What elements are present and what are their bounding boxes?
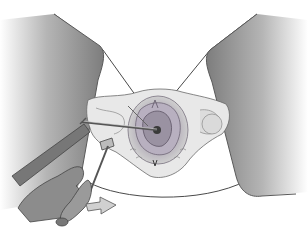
surgical-illustration xyxy=(0,0,308,240)
instrument-handle xyxy=(90,146,108,192)
handle-end xyxy=(56,218,68,226)
buttock-outline xyxy=(88,180,248,197)
rotation-arrow-icon xyxy=(86,197,116,214)
tissue-bulge-right xyxy=(202,114,222,134)
illustration-canvas xyxy=(0,0,308,240)
